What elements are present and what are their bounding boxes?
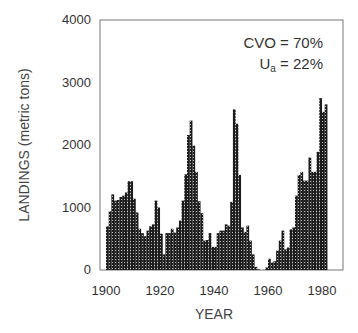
bar-1953	[249, 241, 252, 270]
bar-1905	[120, 197, 123, 270]
x-tick-label: 1980	[308, 283, 337, 298]
bar-1940	[214, 247, 217, 270]
bar-1967	[287, 248, 290, 271]
bar-1911	[136, 213, 139, 271]
bar-1959	[265, 268, 268, 271]
bar-1968	[290, 229, 293, 270]
bar-1949	[238, 175, 241, 270]
x-axis-title: YEAR	[195, 306, 233, 322]
bar-1917	[152, 224, 155, 270]
bars-group	[106, 98, 327, 270]
bar-1969	[292, 228, 295, 271]
bar-1962	[273, 261, 276, 270]
bar-1976	[311, 172, 314, 270]
annotation-cvo: CVO = 70%	[243, 34, 323, 51]
bar-1942	[219, 231, 222, 270]
y-tick-label: 1000	[62, 200, 91, 215]
bar-1954	[252, 254, 255, 270]
bar-1961	[271, 263, 274, 271]
bar-1966	[284, 249, 287, 270]
annotation-ua: Ua = 22%	[259, 55, 323, 74]
bar-1964	[279, 241, 282, 270]
bar-1948	[236, 124, 239, 270]
y-tick-label: 0	[84, 262, 91, 277]
bar-1975	[309, 158, 312, 271]
bar-1913	[141, 233, 144, 270]
bar-1981	[325, 104, 328, 270]
bar-1903	[114, 201, 117, 270]
bar-1977	[314, 172, 317, 270]
bar-1918	[155, 201, 158, 270]
bar-1927	[179, 221, 182, 270]
landings-bar-chart: 0 1000 2000 3000 4000 1900 1920 1940 196…	[0, 0, 358, 333]
x-axis: 1900 1920 1940 1960 1980	[92, 283, 337, 298]
bar-1907	[125, 193, 128, 271]
bar-1971	[298, 175, 301, 270]
bar-1932	[192, 146, 195, 270]
bar-1915	[147, 231, 150, 270]
bar-1943	[222, 231, 225, 270]
bar-1952	[246, 226, 249, 270]
bar-1945	[228, 226, 231, 270]
bar-1963	[276, 251, 279, 270]
bar-1934	[198, 201, 201, 270]
y-axis-title: LANDINGS (metric tons)	[16, 68, 32, 221]
bar-1931	[190, 121, 193, 270]
bar-1912	[138, 229, 141, 270]
x-tick-label: 1920	[146, 283, 175, 298]
bar-1950	[241, 228, 244, 271]
bar-1922	[165, 233, 168, 270]
bar-1904	[117, 200, 120, 270]
bar-1936	[203, 241, 206, 270]
bar-1919	[157, 208, 160, 271]
bar-1906	[122, 196, 125, 270]
bar-1924	[171, 229, 174, 270]
bar-1908	[128, 181, 131, 270]
bar-1947	[233, 109, 236, 270]
x-tick-label: 1960	[254, 283, 283, 298]
bar-1921	[163, 254, 166, 270]
bar-1946	[230, 202, 233, 270]
bar-1910	[133, 199, 136, 270]
bar-1935	[201, 213, 204, 270]
bar-1955	[255, 267, 258, 270]
bar-1939	[211, 247, 214, 270]
bar-1956	[257, 269, 260, 270]
y-tick-label: 2000	[62, 137, 91, 152]
x-tick-label: 1940	[200, 283, 229, 298]
bar-1929	[184, 174, 187, 270]
bar-1930	[187, 135, 190, 270]
bar-1965	[282, 231, 285, 270]
bar-1920	[160, 234, 163, 270]
bar-1937	[206, 240, 209, 270]
bar-1902	[111, 194, 114, 270]
bar-1925	[174, 233, 177, 271]
bar-1951	[244, 232, 247, 270]
bar-1941	[217, 233, 220, 270]
x-tick-label: 1900	[92, 283, 121, 298]
bar-1979	[319, 98, 322, 270]
bar-1960	[268, 259, 271, 270]
bar-1978	[317, 152, 320, 270]
bar-1914	[144, 236, 147, 270]
bar-1938	[209, 233, 212, 270]
bar-1944	[225, 224, 228, 270]
bar-1972	[300, 172, 303, 270]
bar-1926	[176, 228, 179, 271]
bar-1933	[195, 172, 198, 270]
bar-1900	[106, 226, 109, 270]
bar-1909	[130, 181, 133, 270]
y-tick-label: 3000	[62, 75, 91, 90]
bar-1916	[149, 226, 152, 270]
bar-1980	[322, 112, 325, 270]
y-axis: 0 1000 2000 3000 4000	[62, 12, 91, 277]
bar-1974	[306, 181, 309, 270]
y-tick-label: 4000	[62, 12, 91, 27]
bar-1970	[295, 196, 298, 270]
bar-1973	[303, 181, 306, 270]
bar-1923	[168, 233, 171, 270]
bar-1928	[182, 201, 185, 270]
bar-1901	[109, 211, 112, 270]
